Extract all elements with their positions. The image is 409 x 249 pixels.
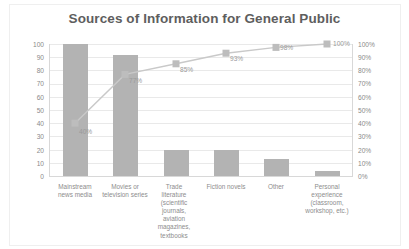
y-tick-left: 30 bbox=[22, 133, 44, 140]
x-label-other: Other bbox=[254, 183, 298, 191]
y-tick-right: 90% bbox=[358, 54, 388, 61]
plot-area: 40% 77% 85% 93% 98% 100% bbox=[50, 44, 352, 176]
chart-figure: Sources of Information for General Publi… bbox=[0, 0, 409, 249]
x-label-trade-literature: Trade literature (scientific journals, a… bbox=[153, 183, 195, 240]
y-tick-right: 60% bbox=[358, 94, 388, 101]
data-label-cumulative: 85% bbox=[180, 66, 193, 73]
marker-point-4 bbox=[223, 50, 230, 57]
y-tick-right: 30% bbox=[358, 133, 388, 140]
y-tick-left: 100 bbox=[22, 41, 44, 48]
y-tick-right: 0% bbox=[358, 173, 388, 180]
y-tick-right: 50% bbox=[358, 107, 388, 114]
y-tick-left: 40 bbox=[22, 120, 44, 127]
y-tick-right: 70% bbox=[358, 80, 388, 87]
x-label-personal-experience: Personal experience (classroom, workshop… bbox=[300, 183, 354, 215]
y-tick-left: 50 bbox=[22, 107, 44, 114]
y-tick-left: 10 bbox=[22, 160, 44, 167]
y-tick-left: 70 bbox=[22, 80, 44, 87]
y-tick-right: 80% bbox=[358, 67, 388, 74]
x-axis-line bbox=[49, 176, 353, 177]
marker-point-6 bbox=[324, 41, 331, 48]
y-tick-right: 20% bbox=[358, 147, 388, 154]
cumulative-line-series bbox=[50, 44, 352, 176]
data-label-cumulative: 77% bbox=[129, 77, 142, 84]
x-label-fiction-novels: Fiction novels bbox=[200, 183, 252, 191]
x-label-mainstream-news-media: Mainstream news media bbox=[52, 183, 98, 199]
x-label-movies-or-television: Movies or television series bbox=[102, 183, 148, 199]
y-tick-left: 0 bbox=[22, 173, 44, 180]
y-tick-left: 20 bbox=[22, 147, 44, 154]
y-tick-left: 80 bbox=[22, 67, 44, 74]
chart-title: Sources of Information for General Publi… bbox=[0, 11, 409, 26]
data-label-cumulative: 93% bbox=[230, 55, 243, 62]
y-tick-right: 40% bbox=[358, 120, 388, 127]
marker-point-5 bbox=[273, 44, 280, 51]
y-tick-right: 100% bbox=[358, 41, 388, 48]
y-axis-right-line bbox=[352, 44, 353, 177]
marker-point-2 bbox=[122, 71, 129, 78]
data-label-cumulative: 98% bbox=[280, 44, 293, 51]
data-label-cumulative: 100% bbox=[333, 40, 350, 47]
y-tick-left: 90 bbox=[22, 54, 44, 61]
y-tick-left: 60 bbox=[22, 94, 44, 101]
y-tick-right: 10% bbox=[358, 160, 388, 167]
marker-point-1 bbox=[72, 120, 79, 127]
marker-point-3 bbox=[173, 60, 180, 67]
data-label-cumulative: 40% bbox=[79, 128, 92, 135]
